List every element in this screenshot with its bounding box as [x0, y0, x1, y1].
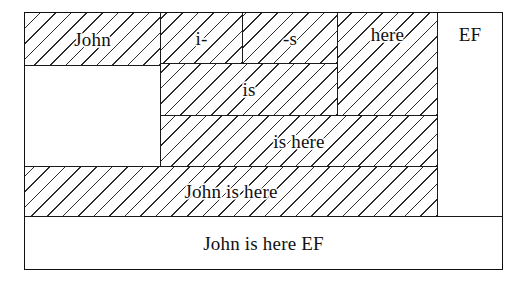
chart-cell-label: John is here	[181, 182, 280, 201]
chart-cell-john-is-here-ef: John is here EF	[24, 216, 503, 270]
parse-chart: John i- -s here EF is is here John is he…	[0, 0, 527, 282]
chart-cell-john-is-here: John is here	[24, 166, 438, 217]
chart-cell-s-suffix: -s	[242, 12, 338, 64]
chart-cell-here: here	[337, 12, 438, 116]
chart-cell-label: here	[368, 25, 408, 44]
chart-cell-label: John	[71, 30, 114, 49]
chart-cell-is-here: is here	[160, 115, 438, 167]
chart-cell-ef: EF	[437, 12, 503, 217]
chart-cell-label: is here	[270, 132, 328, 151]
chart-cell-label: is	[239, 80, 258, 99]
chart-cell-i-prefix: i-	[160, 12, 243, 64]
chart-cell-john: John	[24, 12, 161, 66]
chart-cell-label: -s	[280, 29, 300, 48]
chart-cell-label: John is here EF	[200, 234, 327, 253]
chart-cell-is: is	[160, 63, 338, 116]
chart-cell-label: i-	[192, 29, 210, 48]
chart-cell-label: EF	[456, 25, 485, 44]
